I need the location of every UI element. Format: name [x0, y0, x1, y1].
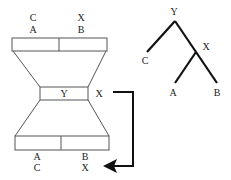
- tree-label-c: C: [142, 55, 149, 66]
- middle-side-label-x: X: [95, 88, 103, 99]
- tree-label-b: B: [214, 87, 221, 98]
- bottom-label-a: A: [33, 151, 41, 162]
- tree-label-a: A: [169, 87, 177, 98]
- middle-label-y: Y: [60, 88, 67, 99]
- top-label-c: C: [30, 12, 37, 23]
- bottom-label-x: X: [81, 162, 89, 173]
- diagram-canvas: C X A B Y X A B C X Y X C A: [0, 0, 231, 180]
- tree-label-y: Y: [170, 6, 177, 17]
- top-box: [12, 38, 107, 51]
- lower-funnel: [15, 100, 109, 136]
- phylogenetic-tree: [147, 21, 217, 83]
- bottom-label-b: B: [82, 151, 89, 162]
- top-label-a: A: [29, 24, 37, 35]
- bottom-label-c: C: [34, 162, 41, 173]
- tree-label-x: X: [202, 41, 210, 52]
- bottom-box: [15, 136, 109, 150]
- upper-funnel: [13, 51, 106, 87]
- top-label-b: B: [78, 24, 85, 35]
- top-label-x: X: [77, 12, 85, 23]
